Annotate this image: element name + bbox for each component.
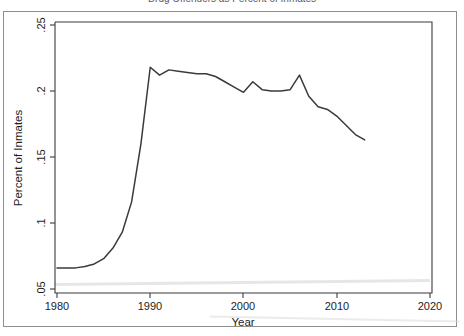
data-series-line bbox=[57, 67, 365, 268]
plot-frame bbox=[55, 22, 432, 293]
y-axis-title: Percent of Inmates bbox=[12, 109, 24, 206]
y-tick-label: .05 bbox=[35, 281, 47, 296]
y-tick-label: .15 bbox=[35, 149, 47, 164]
plot-area: .25 .2 .15 .1 .05 Percent of Inmates 198… bbox=[0, 0, 464, 336]
x-axis-ticks bbox=[57, 293, 430, 298]
y-tick-label: .1 bbox=[35, 218, 47, 227]
x-axis-tick-labels: 1980 1990 2000 2010 2020 bbox=[45, 300, 442, 312]
x-tick-label: 2020 bbox=[418, 300, 442, 312]
x-tick-label: 1980 bbox=[45, 300, 69, 312]
x-tick-label: 1990 bbox=[138, 300, 162, 312]
chart-figure: Drug Offenders as Percent of Inmates .25… bbox=[0, 0, 464, 336]
y-tick-label: .25 bbox=[35, 17, 47, 32]
x-axis-title: Year bbox=[231, 316, 254, 328]
y-tick-label: .2 bbox=[35, 86, 47, 95]
x-tick-label: 2010 bbox=[325, 300, 349, 312]
y-axis-tick-labels: .25 .2 .15 .1 .05 bbox=[35, 17, 47, 296]
x-tick-label: 2000 bbox=[231, 300, 255, 312]
y-axis-ticks bbox=[50, 25, 55, 289]
